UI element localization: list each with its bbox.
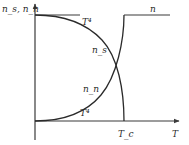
two-fluid-diagram: n_s, n_n T⁴ n_s n_n T⁴ n T_c T xyxy=(0,0,189,145)
y-axis-label: n_s, n_n xyxy=(2,4,39,15)
ns-approx-label: T⁴ xyxy=(82,17,92,27)
nn-curve-label: n_n xyxy=(83,84,99,95)
nn-curve xyxy=(35,15,124,121)
x-axis-label: T xyxy=(172,129,179,139)
nn-approx-label: T⁴ xyxy=(80,108,90,118)
tc-label: T_c xyxy=(118,129,134,140)
ns-curve-label: n_s xyxy=(92,45,107,56)
ns-curve xyxy=(35,15,124,121)
n-total-label: n xyxy=(150,4,156,14)
